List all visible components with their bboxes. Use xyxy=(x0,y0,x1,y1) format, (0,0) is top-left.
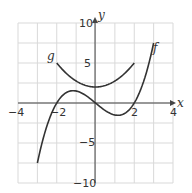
tick-x-4: 4 xyxy=(170,106,177,119)
curve-g-label: g xyxy=(47,49,55,63)
tick-y-neg5: −5 xyxy=(79,136,95,149)
x-axis-label: x xyxy=(177,96,184,110)
function-graph: x y f g −4 −2 2 4 10 5 −5 −10 xyxy=(0,0,192,193)
tick-y-5: 5 xyxy=(84,57,91,70)
tick-x-neg4: −4 xyxy=(8,106,24,119)
tick-x-neg2: −2 xyxy=(50,106,66,119)
y-axis-label: y xyxy=(97,8,105,22)
tick-x-2: 2 xyxy=(131,106,138,119)
tick-y-10: 10 xyxy=(79,17,93,30)
tick-y-neg10: −10 xyxy=(73,177,96,190)
